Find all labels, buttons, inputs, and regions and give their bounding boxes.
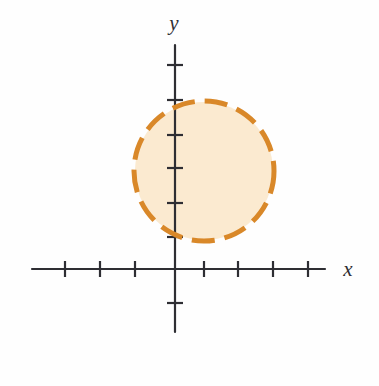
x-axis-label: x <box>342 257 353 281</box>
graph-figure: x y <box>0 0 379 386</box>
y-axis-label: y <box>167 11 179 35</box>
coordinate-plot: x y <box>0 0 379 386</box>
